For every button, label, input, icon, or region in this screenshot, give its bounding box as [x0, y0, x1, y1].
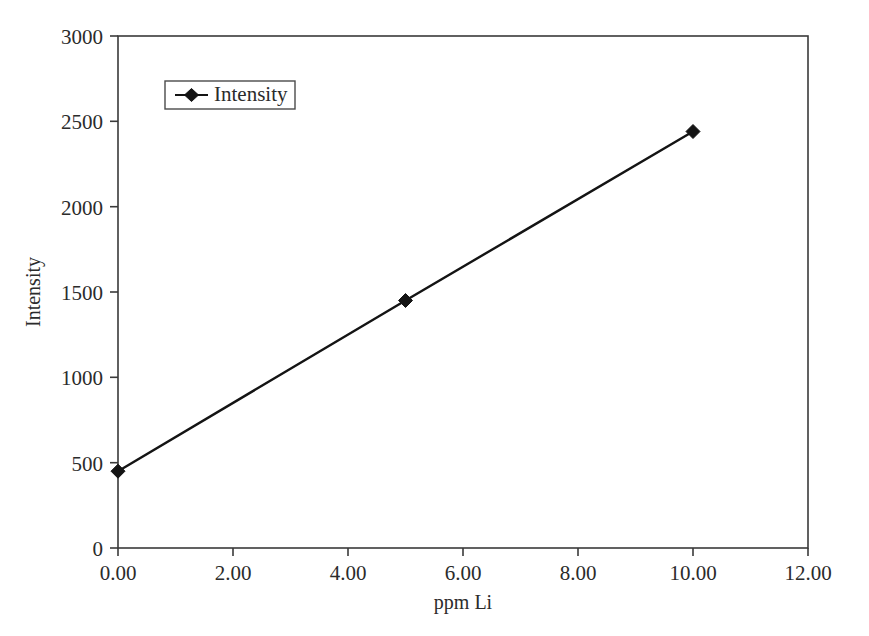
- legend-entry-label: Intensity: [214, 82, 288, 106]
- chart-page: 0 500 1000 1500 2000 2500 3000 0.00 2.00…: [0, 0, 869, 636]
- data-point-marker: [686, 125, 700, 139]
- plot-frame: [118, 36, 808, 548]
- legend[interactable]: Intensity: [165, 81, 295, 109]
- x-tick-label-2: 2.00: [215, 561, 252, 585]
- series-markers-intensity: [111, 125, 700, 479]
- x-axis-ticks: [118, 548, 808, 556]
- y-axis-title: Intensity: [22, 257, 45, 327]
- data-point-marker: [111, 464, 125, 478]
- chart-canvas: 0 500 1000 1500 2000 2500 3000 0.00 2.00…: [0, 0, 869, 636]
- x-tick-label-10: 10.00: [669, 561, 716, 585]
- y-tick-label-1500: 1500: [61, 281, 103, 305]
- y-tick-label-1000: 1000: [61, 366, 103, 390]
- y-tick-label-3000: 3000: [61, 25, 103, 49]
- y-tick-label-0: 0: [93, 537, 104, 561]
- data-point-marker: [399, 294, 413, 308]
- x-tick-label-12: 12.00: [784, 561, 831, 585]
- x-tick-label-4: 4.00: [330, 561, 367, 585]
- x-axis-title: ppm Li: [434, 591, 493, 614]
- x-tick-label-0: 0.00: [100, 561, 137, 585]
- x-tick-label-6: 6.00: [445, 561, 482, 585]
- x-tick-label-8: 8.00: [560, 561, 597, 585]
- y-tick-label-500: 500: [72, 452, 104, 476]
- y-tick-label-2500: 2500: [61, 110, 103, 134]
- calibration-curve-figure: 0 500 1000 1500 2000 2500 3000 0.00 2.00…: [0, 0, 869, 636]
- y-tick-label-2000: 2000: [61, 196, 103, 220]
